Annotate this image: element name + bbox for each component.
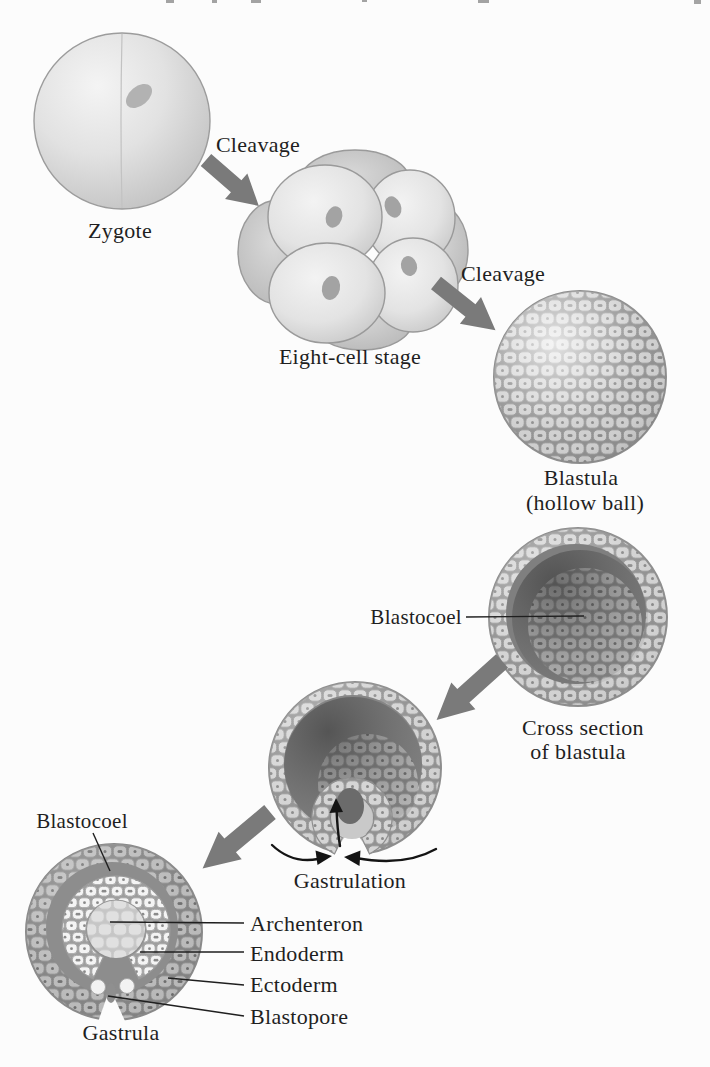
cross-section-label-line2: of blastula bbox=[530, 739, 626, 764]
blastula-label-line1: Blastula bbox=[544, 465, 619, 490]
cropped-page-text-remnant bbox=[166, 0, 701, 4]
arrow-crosssection-to-gastrulation bbox=[425, 648, 514, 734]
endoderm-label: Endoderm bbox=[250, 941, 344, 966]
cross-section-cavity-shading bbox=[512, 550, 648, 686]
cross-section-label-line1: Cross section bbox=[522, 715, 644, 740]
archenteron-label: Archenteron bbox=[250, 911, 363, 936]
eight-cell-label: Eight-cell stage bbox=[279, 344, 421, 369]
embryonic-development-diagram: Zygote Cleavage Eight-cell stage Cleavag… bbox=[0, 0, 710, 1067]
gastrula-archenteron-cavity bbox=[87, 900, 145, 958]
cleavage-label-1: Cleavage bbox=[216, 132, 300, 157]
gastrulation-archenteron-opening bbox=[336, 788, 364, 824]
gastrulation-illustration bbox=[269, 682, 441, 866]
blastopore-label: Blastopore bbox=[250, 1004, 348, 1029]
blastocoel-leader-line bbox=[466, 616, 584, 617]
gastrula-label: Gastrula bbox=[83, 1020, 160, 1045]
blastula-label-line2: (hollow ball) bbox=[526, 490, 644, 515]
archenteron-leader-line bbox=[110, 922, 244, 923]
blastocoel-gastrula-label: Blastocoel bbox=[36, 809, 128, 833]
gastrulation-left-arrowhead bbox=[316, 851, 333, 866]
gastrula-blastopore-opening bbox=[106, 983, 116, 1003]
gastrulation-left-curved-arrow bbox=[272, 845, 318, 860]
ectoderm-label: Ectoderm bbox=[250, 972, 338, 997]
gastrula-blastopore-lip-cell bbox=[91, 980, 106, 995]
gastrula-illustration bbox=[26, 844, 202, 1022]
blastula-illustration bbox=[494, 291, 666, 463]
blastocoel-label: Blastocoel bbox=[370, 605, 462, 629]
gastrulation-label: Gastrulation bbox=[294, 868, 406, 893]
arrow-gastrulation-to-gastrula bbox=[191, 798, 282, 882]
zygote-label: Zygote bbox=[88, 218, 152, 243]
blastula-sphere-shading bbox=[494, 291, 666, 463]
cleavage-label-2: Cleavage bbox=[461, 261, 545, 286]
zygote-illustration bbox=[34, 33, 210, 209]
eight-cell-illustration bbox=[238, 150, 468, 350]
gastrula-blastopore-lip-cell bbox=[120, 979, 135, 994]
